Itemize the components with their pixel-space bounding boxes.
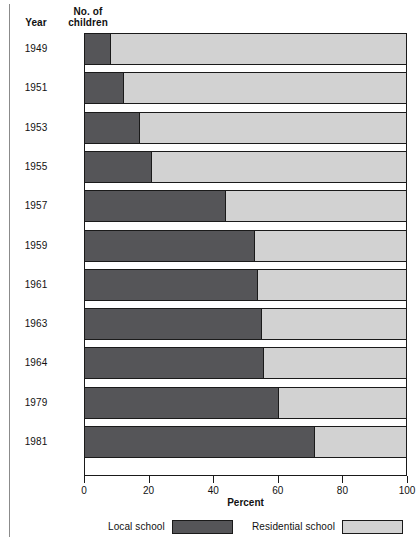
row-label-year: 1961 <box>14 278 58 292</box>
stacked-bar-chart: Year No. of children 19495,81819515,6761… <box>0 0 419 541</box>
bar-segment-residential <box>315 427 406 457</box>
bar-row <box>84 387 407 419</box>
bar-row <box>84 112 407 144</box>
bar-row <box>84 347 407 379</box>
bar-segment-local <box>85 427 315 457</box>
x-axis-tick <box>213 476 214 483</box>
chart-legend: Local school Residential school <box>84 519 407 535</box>
x-axis-tick-label: 60 <box>258 485 298 497</box>
bar-row <box>84 151 407 183</box>
bar-row <box>84 269 407 301</box>
legend-item-residential: Residential school <box>252 519 403 535</box>
row-label-year: 1953 <box>14 121 58 135</box>
legend-swatch-local <box>172 520 233 534</box>
row-label-year: 1959 <box>14 239 58 253</box>
bar-segment-local <box>85 191 226 221</box>
bar-segment-local <box>85 231 255 261</box>
row-label-year: 1957 <box>14 199 58 213</box>
legend-label-local: Local school <box>108 521 165 533</box>
row-label-year: 1949 <box>14 42 58 56</box>
row-label-year: 1955 <box>14 160 58 174</box>
bar-segment-local <box>85 152 152 182</box>
legend-label-residential: Residential school <box>252 521 335 533</box>
bar-segment-local <box>85 348 264 378</box>
bar-row <box>84 426 407 458</box>
legend-swatch-residential <box>342 520 403 534</box>
column-header-children: No. of children <box>58 6 118 28</box>
bar-segment-residential <box>124 73 406 103</box>
bar-row <box>84 190 407 222</box>
x-axis-tick-label: 40 <box>193 485 233 497</box>
plot-area <box>84 33 407 476</box>
bar-segment-local <box>85 388 279 418</box>
bar-segment-residential <box>264 348 406 378</box>
bar-segment-residential <box>258 270 406 300</box>
bar-segment-local <box>85 309 262 339</box>
row-label-year: 1963 <box>14 317 58 331</box>
bar-segment-residential <box>152 152 406 182</box>
x-axis-tick <box>407 476 408 483</box>
row-label-year: 1964 <box>14 356 58 370</box>
column-header-children-line2: children <box>58 17 118 28</box>
bar-row <box>84 308 407 340</box>
bar-segment-residential <box>226 191 406 221</box>
x-axis-tick <box>149 476 150 483</box>
bar-segment-residential <box>140 113 406 143</box>
column-header-year: Year <box>14 17 58 28</box>
bar-row <box>84 72 407 104</box>
row-label-year: 1979 <box>14 396 58 410</box>
bar-segment-local <box>85 73 124 103</box>
x-axis: 020406080100 <box>84 476 407 477</box>
bar-segment-residential <box>262 309 406 339</box>
x-axis-tick-label: 80 <box>322 485 362 497</box>
column-header-children-line1: No. of <box>58 6 118 17</box>
row-label-year: 1981 <box>14 435 58 449</box>
x-axis-tick <box>342 476 343 483</box>
x-axis-tick <box>84 476 85 483</box>
bar-segment-residential <box>111 34 406 64</box>
bar-segment-residential <box>279 388 406 418</box>
row-label-year: 1951 <box>14 81 58 95</box>
x-axis-tick <box>278 476 279 483</box>
bar-segment-local <box>85 270 258 300</box>
bar-row <box>84 230 407 262</box>
bar-segment-residential <box>255 231 406 261</box>
x-axis-title: Percent <box>84 497 407 509</box>
x-axis-tick-label: 100 <box>387 485 419 497</box>
x-axis-tick-label: 20 <box>129 485 169 497</box>
bar-row <box>84 33 407 65</box>
left-border-rule <box>9 4 10 537</box>
bar-segment-local <box>85 113 140 143</box>
x-axis-tick-label: 0 <box>64 485 104 497</box>
legend-item-local: Local school <box>108 519 233 535</box>
bar-segment-local <box>85 34 111 64</box>
